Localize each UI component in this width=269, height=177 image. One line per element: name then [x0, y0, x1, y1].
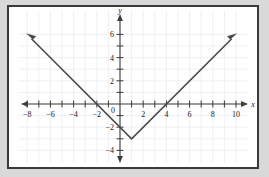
x-tick-label-neg2: −2	[93, 110, 102, 119]
y-tick-label-2: 2	[110, 77, 114, 86]
y-tick-label-neg2: −2	[105, 123, 114, 132]
y-tick-label-4: 4	[110, 54, 114, 63]
x-tick-label-neg6: −6	[46, 110, 55, 119]
y-axis-down-arrow	[117, 156, 123, 163]
x-axis-right-arrow	[241, 101, 248, 107]
chart-figure: −8 −6 −4 −2 2 4 6 8 10 6 4 2 0 −2 −4 x	[0, 0, 269, 177]
x-tick-label-2: 2	[141, 110, 145, 119]
coordinate-plane: −8 −6 −4 −2 2 4 6 8 10 6 4 2 0 −2 −4 x	[9, 7, 257, 167]
x-tick-label-8: 8	[211, 110, 215, 119]
y-tick-label-neg4: −4	[105, 146, 114, 155]
x-tick-label-6: 6	[188, 110, 192, 119]
y-axis-up-arrow	[117, 14, 123, 21]
y-axis-label: y	[117, 7, 122, 15]
y-tick-label-0: 0	[111, 106, 115, 115]
y-tick-label-6: 6	[110, 30, 114, 39]
x-tick-label-4: 4	[164, 110, 168, 119]
axis-arrowheads	[21, 14, 248, 163]
grid-lines	[19, 11, 247, 163]
x-axis-label: x	[250, 100, 255, 109]
x-tick-label-10: 10	[232, 110, 240, 119]
chart-panel: −8 −6 −4 −2 2 4 6 8 10 6 4 2 0 −2 −4 x	[7, 5, 259, 169]
x-tick-label-neg4: −4	[69, 110, 78, 119]
y-tick-labels: 6 4 2 0 −2 −4	[105, 30, 115, 155]
x-tick-label-neg8: −8	[23, 110, 32, 119]
